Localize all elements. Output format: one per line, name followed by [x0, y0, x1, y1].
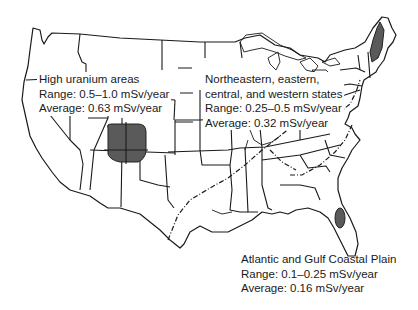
coastal-plain-average: Average: 0.16 mSv/year [241, 281, 396, 296]
high-uranium-range: Range: 0.5–1.0 mSv/year [39, 87, 169, 102]
coastal-plain-title: Atlantic and Gulf Coastal Plain [241, 252, 396, 267]
high-uranium-average: Average: 0.63 mSv/year [39, 101, 169, 116]
high-uranium-area-colorado-plateau [108, 124, 147, 162]
northeastern-average: Average: 0.32 mSv/year [205, 116, 342, 131]
label-high-uranium-areas: High uranium areas Range: 0.5–1.0 mSv/ye… [37, 72, 171, 116]
coastal-plain-range: Range: 0.1–0.25 mSv/year [241, 267, 396, 282]
label-coastal-plain: Atlantic and Gulf Coastal Plain Range: 0… [241, 252, 396, 296]
northeastern-range: Range: 0.25–0.5 mSv/year [205, 101, 342, 116]
northeastern-title-line1: Northeastern, eastern, [205, 72, 342, 87]
high-uranium-title: High uranium areas [39, 72, 169, 87]
high-uranium-area-florida [335, 208, 345, 228]
label-northeastern-states: Northeastern, eastern, central, and west… [203, 72, 344, 130]
northeastern-title-line2: central, and western states [205, 87, 342, 102]
